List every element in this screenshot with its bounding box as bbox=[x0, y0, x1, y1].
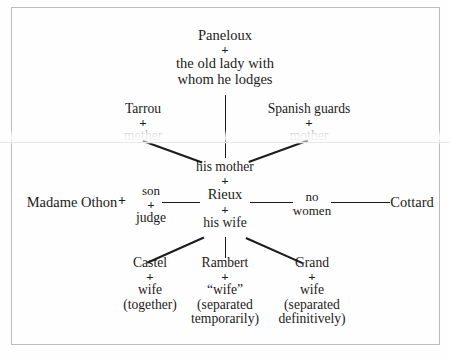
node-tarrou: Tarrou + mother bbox=[124, 102, 163, 144]
node-judge-son: son + judge bbox=[136, 184, 166, 225]
node-rieux-family: his mother + Rieux + his wife bbox=[196, 160, 254, 230]
grand-status-line2: definitively) bbox=[278, 312, 345, 326]
node-paneloux: Paneloux + the old lady with whom he lod… bbox=[176, 28, 274, 87]
node-madame-othon: Madame Othon bbox=[27, 195, 118, 210]
rambert-status-line1: (separated bbox=[191, 298, 259, 312]
paneloux-label: Paneloux bbox=[176, 28, 274, 43]
node-grand: Grand + wife (separated definitively) bbox=[278, 256, 345, 327]
castel-partner-label: wife bbox=[123, 283, 177, 297]
connector-no-women-to-cottard bbox=[331, 202, 390, 203]
no-women-line2: women bbox=[293, 204, 331, 218]
no-women-line1: no bbox=[293, 190, 331, 204]
castel-label: Castel bbox=[123, 256, 177, 270]
diagram-page: Paneloux + the old lady with whom he lod… bbox=[0, 0, 450, 358]
spanish-guards-label: Spanish guards bbox=[268, 102, 351, 116]
paneloux-partner-line1: the old lady with bbox=[176, 56, 274, 71]
node-cottard: Cottard bbox=[390, 195, 434, 210]
son-label: son bbox=[136, 184, 166, 198]
rieux-label: Rieux bbox=[196, 187, 254, 202]
grand-partner-label: wife bbox=[278, 283, 345, 297]
node-castel: Castel + wife (together) bbox=[123, 256, 177, 312]
node-spanish-guards: Spanish guards + mother bbox=[268, 102, 351, 144]
paneloux-partner-line2: whom he lodges bbox=[176, 72, 274, 87]
judge-label: judge bbox=[136, 211, 166, 225]
plus-sign: + bbox=[196, 203, 254, 216]
castel-status-label: (together) bbox=[123, 298, 177, 312]
connector-paneloux-to-his-mother bbox=[225, 95, 226, 158]
node-rambert: Rambert + “wife” (separated temporarily) bbox=[191, 256, 259, 327]
plus-sign: + bbox=[118, 194, 126, 208]
tarrou-label: Tarrou bbox=[124, 102, 163, 116]
cottard-label: Cottard bbox=[390, 195, 434, 210]
spanish-guards-partner-label: mother bbox=[268, 129, 351, 143]
grand-status-line1: (separated bbox=[278, 298, 345, 312]
node-no-women: no women bbox=[293, 190, 331, 218]
grand-label: Grand bbox=[278, 256, 345, 270]
his-mother-label: his mother bbox=[196, 160, 254, 174]
his-wife-label: his wife bbox=[196, 216, 254, 230]
connector-rieux-to-no-women bbox=[250, 202, 293, 203]
rambert-partner-label: “wife” bbox=[191, 283, 259, 297]
tarrou-partner-label: mother bbox=[124, 129, 163, 143]
plus-othon-judge: + bbox=[118, 194, 126, 208]
rambert-label: Rambert bbox=[191, 256, 259, 270]
plus-sign: + bbox=[136, 198, 166, 211]
rambert-status-line2: temporarily) bbox=[191, 312, 259, 326]
madame-othon-label: Madame Othon bbox=[27, 195, 118, 210]
connector-judge-to-rieux bbox=[162, 202, 200, 203]
